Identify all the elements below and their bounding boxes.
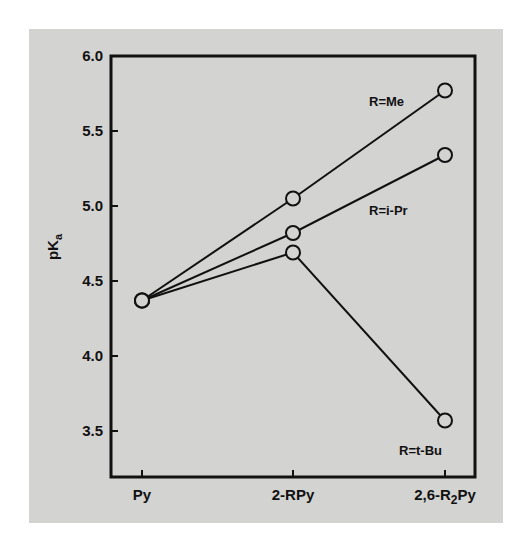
x-tick-label: 2-RPy [272, 486, 315, 503]
plot-frame [111, 56, 475, 477]
series-layer [135, 84, 452, 428]
series-label-ipr: R=i-Pr [369, 203, 408, 218]
series-labels: R=Me R=i-Pr R=t-Bu [369, 94, 442, 458]
y-tick-label: 5.0 [82, 197, 103, 214]
data-point-marker [135, 294, 149, 308]
series-label-tbu: R=t-Bu [399, 443, 442, 458]
data-point-marker [438, 84, 452, 98]
data-point-marker [438, 414, 452, 428]
series-r-t-bu [142, 253, 445, 421]
y-axis-title-text: pKa [44, 233, 64, 260]
series-line [142, 253, 445, 421]
y-tick-label: 6.0 [82, 47, 103, 64]
data-point-marker [286, 246, 300, 260]
y-tick-label: 5.5 [82, 122, 103, 139]
x-tick-label: 2,6-R2Py [414, 486, 476, 507]
pka-line-chart: 3.54.04.55.05.56.0 Py2-RPy2,6-R2Py R=Me … [0, 0, 515, 549]
plot-border [111, 56, 475, 477]
y-tick-label: 4.0 [82, 347, 103, 364]
data-point-marker [286, 192, 300, 206]
data-point-marker [438, 148, 452, 162]
x-tick-label: Py [133, 486, 152, 503]
series-label-me: R=Me [369, 94, 404, 109]
y-axis: 3.54.04.55.05.56.0 [82, 47, 118, 439]
data-point-marker [286, 226, 300, 240]
y-tick-label: 4.5 [82, 272, 103, 289]
y-tick-label: 3.5 [82, 422, 103, 439]
y-axis-title: pKa [44, 233, 64, 260]
